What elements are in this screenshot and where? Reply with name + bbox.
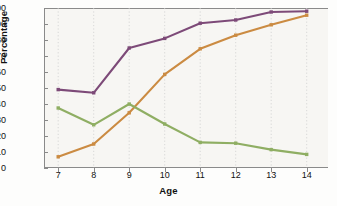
x-axis-label: Age	[0, 185, 337, 196]
x-tick-mark	[200, 168, 201, 172]
data-point-marker	[163, 122, 166, 125]
data-point-marker	[234, 142, 237, 145]
data-point-marker	[199, 141, 202, 144]
data-point-marker	[234, 18, 237, 21]
x-tick-mark	[94, 168, 95, 172]
y-tick-mark	[44, 152, 48, 153]
data-point-marker	[128, 46, 131, 49]
series-layer	[57, 10, 309, 159]
series-line-purple-series	[58, 11, 307, 93]
data-point-marker	[57, 106, 60, 109]
data-point-marker	[199, 22, 202, 25]
y-tick-label: 60	[0, 68, 6, 76]
data-point-marker	[57, 155, 60, 158]
y-tick-mark	[44, 168, 48, 169]
data-point-marker	[92, 123, 95, 126]
y-tick-mark	[44, 40, 48, 41]
data-point-marker	[128, 102, 131, 105]
y-tick-mark	[44, 24, 48, 25]
data-point-marker	[163, 37, 166, 40]
data-point-marker	[305, 10, 308, 13]
y-tick-mark	[44, 120, 48, 121]
y-tick-mark	[44, 88, 48, 89]
data-point-marker	[163, 73, 166, 76]
x-tick-mark	[165, 168, 166, 172]
series-line-green-series	[58, 104, 307, 154]
x-tick-mark	[236, 168, 237, 172]
y-tick-label: 10	[0, 148, 6, 156]
data-point-marker	[92, 91, 95, 94]
x-tick-mark	[58, 168, 59, 172]
x-tick-mark	[271, 168, 272, 172]
data-point-marker	[92, 142, 95, 145]
y-tick-label: 70	[0, 52, 6, 60]
y-tick-mark	[44, 56, 48, 57]
y-tick-mark	[44, 72, 48, 73]
line-chart: Percentage 0102030405060708090100 789101…	[0, 0, 337, 206]
data-point-marker	[270, 23, 273, 26]
series-line-orange-series	[58, 15, 307, 157]
data-point-marker	[270, 10, 273, 13]
y-tick-label: 100	[0, 4, 6, 12]
y-tick-label: 20	[0, 132, 6, 140]
y-tick-label: 30	[0, 116, 6, 124]
y-tick-mark	[44, 136, 48, 137]
data-point-marker	[57, 88, 60, 91]
data-point-marker	[199, 47, 202, 50]
x-tick-mark	[129, 168, 130, 172]
y-tick-label: 40	[0, 100, 6, 108]
y-tick-label: 90	[0, 20, 6, 28]
y-tick-mark	[44, 104, 48, 105]
x-tick-mark	[307, 168, 308, 172]
data-point-marker	[234, 34, 237, 37]
data-point-marker	[128, 111, 131, 114]
gridlines	[58, 8, 307, 168]
y-tick-label: 0	[0, 164, 6, 172]
y-tick-label: 80	[0, 36, 6, 44]
data-point-marker	[305, 14, 308, 17]
y-tick-mark	[44, 8, 48, 9]
data-point-marker	[305, 153, 308, 156]
y-tick-label: 50	[0, 84, 6, 92]
data-point-marker	[270, 148, 273, 151]
